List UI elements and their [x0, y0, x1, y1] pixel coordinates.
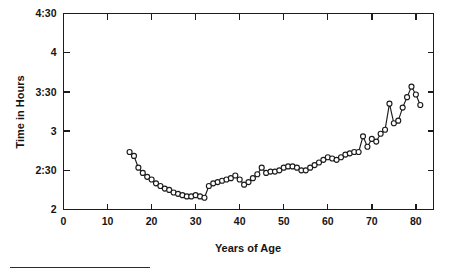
data-point-marker [233, 173, 238, 178]
data-point-marker [374, 139, 379, 144]
y-tick-label: 4:30 [35, 7, 56, 19]
x-axis-title: Years of Age [215, 242, 281, 254]
x-tick-label: 70 [366, 215, 378, 227]
data-point-marker [409, 84, 414, 89]
x-tick-label: 10 [102, 215, 114, 227]
data-point-marker [378, 131, 383, 136]
data-point-marker [383, 127, 388, 132]
data-point-marker [405, 95, 410, 100]
data-point-marker [259, 165, 264, 170]
x-tick-label: 30 [190, 215, 202, 227]
data-point-marker [356, 150, 361, 155]
data-point-marker [140, 170, 145, 175]
data-point-marker [365, 144, 370, 149]
data-point-marker [400, 105, 405, 110]
y-tick-label: 3 [51, 125, 57, 137]
data-point-marker [136, 165, 141, 170]
y-tick-label: 3:30 [35, 86, 56, 98]
data-point-marker [250, 176, 255, 181]
data-point-marker [237, 177, 242, 182]
data-point-marker [246, 180, 251, 185]
y-tick-label: 2 [51, 203, 57, 215]
data-point-marker [255, 172, 260, 177]
y-axis-title: Time in Hours [14, 75, 26, 148]
data-point-marker [149, 177, 154, 182]
line-chart: 4:3043:3032:302 01020304050607080 Time i… [0, 0, 453, 273]
series-markers-group [127, 84, 423, 200]
y-tick-label: 4 [51, 46, 57, 58]
data-point-marker [396, 118, 401, 123]
x-tick-label: 80 [410, 215, 422, 227]
data-point-marker [127, 150, 132, 155]
data-point-marker [361, 134, 366, 139]
data-point-marker [387, 101, 392, 106]
y-tick-label: 2:30 [35, 164, 56, 176]
x-tick-label: 50 [278, 215, 290, 227]
x-tick-label: 0 [61, 215, 67, 227]
data-point-marker [131, 153, 136, 158]
data-point-marker [202, 195, 207, 200]
data-point-marker [418, 102, 423, 107]
y-axis-tick-labels: 4:3043:3032:302 [35, 7, 56, 215]
x-tick-label: 20 [146, 215, 158, 227]
x-tick-label: 40 [234, 215, 246, 227]
chart-figure: 4:3043:3032:302 01020304050607080 Time i… [0, 0, 453, 273]
x-tick-label: 60 [322, 215, 334, 227]
x-axis-tick-labels: 01020304050607080 [61, 215, 422, 227]
data-point-marker [413, 92, 418, 97]
footer-rule [10, 267, 150, 268]
